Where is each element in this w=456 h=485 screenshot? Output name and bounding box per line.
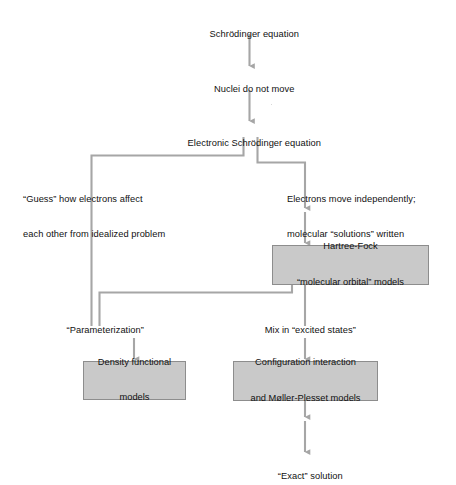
node-label: Electronic Schrödinger equation bbox=[188, 138, 321, 148]
node-exact-solution: “Exact” solution bbox=[267, 459, 342, 485]
node-electronic-schrodinger-equation: Electronic Schrödinger equation bbox=[177, 126, 321, 161]
node-label: Nuclei do not move bbox=[214, 84, 294, 94]
box-label-line1: Density functional bbox=[98, 357, 171, 369]
box-label-line1: Hartree-Fock bbox=[297, 241, 404, 253]
connector-hartreefock-to-parameterization bbox=[100, 285, 293, 312]
box-configuration-interaction: Configuration interaction and Møller-Ple… bbox=[233, 361, 378, 401]
node-guess-branch: “Guess” how electrons affect each other … bbox=[23, 171, 165, 264]
box-density-functional-models: Density functional models bbox=[83, 361, 186, 400]
node-schrodinger-equation: Schrödinger equation bbox=[199, 17, 299, 52]
node-label-line1: “Guess” how electrons affect bbox=[23, 194, 165, 206]
box-label-line2: and Møller-Plesset models bbox=[250, 393, 360, 405]
box-label-line1: Configuration interaction bbox=[250, 357, 360, 369]
node-label: Schrödinger equation bbox=[210, 29, 299, 39]
node-nuclei-do-not-move: Nuclei do not move bbox=[203, 72, 294, 107]
box-label-line2: models bbox=[98, 392, 171, 404]
node-label-line2: each other from idealized problem bbox=[23, 229, 165, 241]
node-label-line1: Electrons move independently; bbox=[287, 194, 416, 206]
flowchart-canvas: Schrödinger equation Nuclei do not move … bbox=[0, 0, 456, 485]
node-label: “Exact” solution bbox=[278, 471, 343, 481]
box-label-line2: “molecular orbital” models bbox=[297, 277, 404, 289]
box-hartree-fock: Hartree-Fock “molecular orbital” models bbox=[272, 245, 429, 285]
